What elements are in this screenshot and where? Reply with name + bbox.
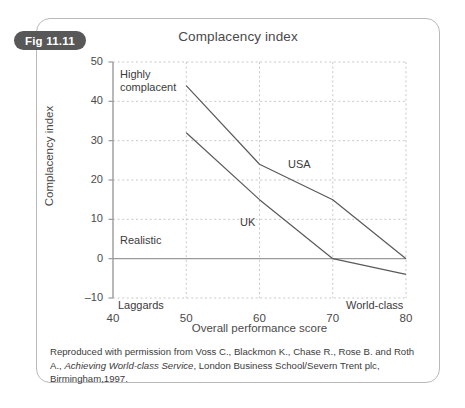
annotation-world-class: World-class [346,299,403,312]
y-tick-label: 10 [77,212,103,224]
figure-number-badge: Fig 11.11 [14,31,86,50]
y-tick-label: 40 [77,94,103,106]
caption-source-title: Achieving World-class Service [64,360,193,371]
figure-caption: Reproduced with permission from Voss C.,… [50,345,428,386]
y-tick-label: 0 [77,252,103,264]
series-label-uk: UK [240,216,255,228]
x-axis-title: Overall performance score [113,322,406,334]
series-label-usa: USA [288,158,311,170]
y-tick-label: –10 [77,291,103,303]
annotation-realistic: Realistic [120,234,162,247]
y-tick-label: 50 [77,55,103,67]
y-tick-label: 20 [77,173,103,185]
annotation-laggards: Laggards [118,299,164,312]
chart-title: Complacency index [36,29,440,44]
y-axis-title: Complacency index [43,91,55,221]
annotation-highly-complacent: Highly complacent [120,68,176,95]
y-tick-label: 30 [77,134,103,146]
